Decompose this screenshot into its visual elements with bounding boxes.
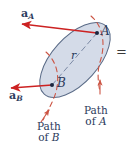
label-path-of-b: Path of B	[37, 121, 61, 143]
label-path-of-a-point: A	[99, 115, 107, 127]
point-a-marker	[95, 31, 99, 35]
label-acceleration-a: aA	[21, 8, 34, 21]
label-path-of-b-line2: of B	[37, 132, 61, 143]
equals-sign: =	[116, 45, 127, 59]
label-path-of-b-prefix: of	[38, 131, 48, 143]
label-path-of-b-point: B	[52, 131, 60, 143]
label-acceleration-a-subscript: A	[28, 12, 34, 21]
label-path-of-a: Path of A	[84, 105, 108, 127]
label-point-a: A	[101, 25, 110, 38]
label-path-of-a-line2: of A	[84, 116, 108, 127]
label-acceleration-b: aB	[9, 90, 23, 103]
point-b-marker	[50, 83, 54, 87]
label-radius: r	[71, 50, 76, 62]
label-acceleration-b-subscript: B	[16, 94, 23, 103]
label-path-of-a-prefix: of	[85, 115, 95, 127]
mechanics-figure: aA aB A B r Path of A Path of B =	[0, 0, 134, 152]
label-point-b: B	[57, 77, 66, 90]
figure-canvas	[0, 0, 134, 152]
